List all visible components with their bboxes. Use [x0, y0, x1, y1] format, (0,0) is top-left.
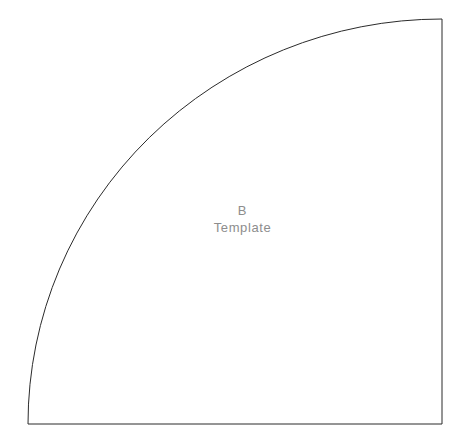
- quarter-circle-template-drawing: [0, 0, 466, 447]
- quarter-circle-outline-path: [28, 19, 442, 424]
- template-canvas: B Template: [0, 0, 466, 447]
